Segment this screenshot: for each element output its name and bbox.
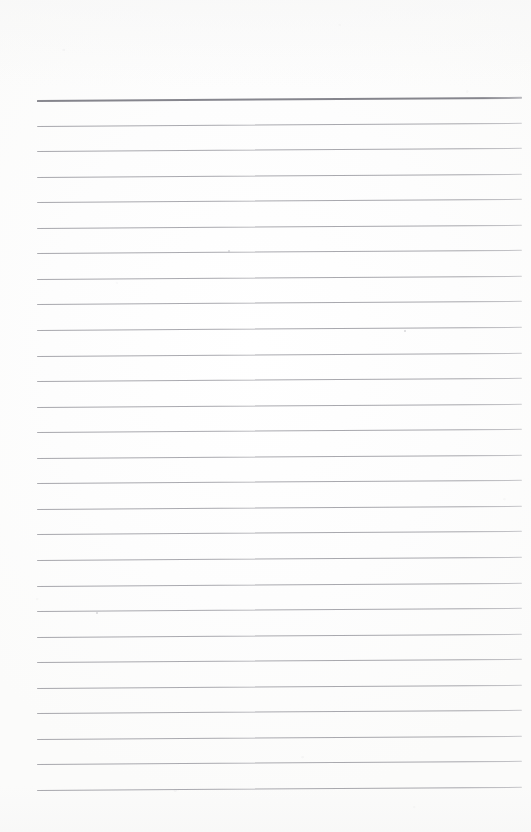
rule-line-ink [37,787,522,791]
rule-line [37,403,522,407]
rule-line [37,327,522,331]
rule-line [37,199,522,203]
rule-line-ink [37,710,522,714]
rule-line [37,557,522,561]
rule-line-ink [37,199,522,203]
rule-line-ink [37,352,522,356]
rule-line [37,608,522,612]
rule-line [37,276,522,280]
rule-line-ink [37,633,522,637]
rule-line-ink [37,582,522,586]
rule-line-ink [37,403,522,407]
rule-line-ink [37,378,522,382]
ruled-lines-group [0,0,531,832]
rule-line [37,480,522,484]
rule-line [37,659,522,663]
rule-line [37,506,522,510]
rule-line-ink [37,327,522,331]
rule-line-ink [37,531,522,535]
rule-line [37,736,522,740]
rule-line [37,301,522,305]
rule-line [37,684,522,688]
rule-line [37,582,522,586]
rule-line-ink [37,122,522,126]
rule-line-ink [37,250,522,254]
rule-line-ink [37,173,522,177]
rule-line [37,122,522,126]
rule-line-ink [37,761,522,765]
rule-line-ink [37,429,522,433]
rule-line [37,352,522,356]
rule-line-ink [37,301,522,305]
scan-speck [96,612,98,614]
rule-line [37,148,522,152]
rule-line-ink [37,736,522,740]
rule-line [37,761,522,765]
rule-line [37,787,522,791]
rule-line [37,531,522,535]
rule-line [37,710,522,714]
rule-line-ink [37,684,522,688]
header-rule-line [37,97,522,102]
rule-line-ink [37,276,522,280]
rule-line-ink [37,506,522,510]
rule-line-ink [37,97,522,102]
rule-line [37,633,522,637]
rule-line [37,173,522,177]
rule-line [37,378,522,382]
rule-line-ink [37,148,522,152]
rule-line [37,250,522,254]
rule-line-ink [37,480,522,484]
rule-line-ink [37,659,522,663]
rule-line [37,225,522,229]
rule-line [37,454,522,458]
scanned-page [0,0,531,832]
rule-line-ink [37,454,522,458]
rule-line [37,429,522,433]
scan-speck [228,250,230,252]
rule-line-ink [37,225,522,229]
rule-line-ink [37,557,522,561]
scan-speck [404,330,406,332]
rule-line-ink [37,608,522,612]
